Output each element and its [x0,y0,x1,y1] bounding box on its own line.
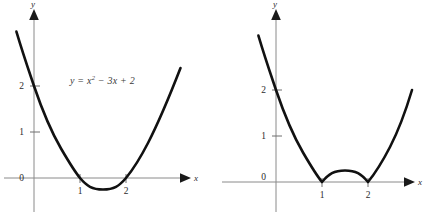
y-axis-name: y [30,0,35,9]
y-tick-label-0: 0 [19,173,24,183]
y-axis-arrowhead [271,9,281,20]
y-tick-label-0: 0 [261,172,266,182]
x-axis-name: x [417,177,422,187]
equation-equals: = [75,75,87,86]
equation-rest: − 3x + 2 [95,75,135,86]
equation-label-left: y = x2 − 3x + 2 [70,74,135,86]
x-axis-name: x [193,173,198,183]
absolute-parabola-curve [258,36,412,182]
x-tick-label-2: 2 [366,190,371,200]
y-tick-label-1: 1 [261,131,266,141]
x-tick-label-1: 1 [78,186,83,196]
chart-svg-right: 2 1 0 1 2 x y [218,0,436,217]
y-tick-label-2: 2 [19,81,24,91]
chart-panel-left: 2 1 0 1 2 x y y = x2 − 3x + 2 [0,0,218,217]
two-panel-parabola-figure: 2 1 0 1 2 x y y = x2 − 3x + 2 [0,0,436,217]
y-tick-label-1: 1 [19,127,24,137]
x-axis-arrowhead [404,177,415,187]
x-tick-label-2: 2 [124,186,129,196]
chart-svg-left: 2 1 0 1 2 x y [0,0,218,217]
y-axis-arrowhead [29,9,39,20]
y-axis-name: y [272,0,277,9]
y-tick-label-2: 2 [261,85,266,95]
parabola-curve [16,32,180,190]
x-tick-label-1: 1 [320,190,325,200]
chart-panel-right: 2 1 0 1 2 x y y = |x2 − 3x + 2| [218,0,436,217]
x-axis-arrowhead [180,173,191,183]
